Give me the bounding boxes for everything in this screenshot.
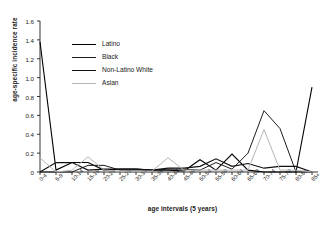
chart-figure: age-specific incidence rate age interval… — [0, 0, 325, 225]
legend-item-label: Non-Latino White — [102, 67, 153, 74]
legend-line-swatch — [72, 83, 96, 84]
legend-item-label: Latino — [102, 41, 120, 48]
series-line-asian — [40, 130, 312, 172]
series-line-non-latino-white — [40, 159, 312, 172]
legend-item[interactable]: Non-Latino White — [72, 64, 153, 77]
legend-line-swatch — [72, 44, 96, 45]
legend-line-swatch — [72, 70, 96, 71]
legend-item[interactable]: Asian — [72, 77, 153, 90]
legend-line-swatch — [72, 57, 96, 58]
legend-item[interactable]: Black — [72, 51, 153, 64]
legend-item-label: Asian — [102, 80, 119, 87]
chart-legend: LatinoBlackNon-Latino WhiteAsian — [72, 38, 153, 90]
legend-item[interactable]: Latino — [72, 38, 153, 51]
legend-item-label: Black — [102, 54, 118, 61]
plot-area — [0, 0, 325, 225]
